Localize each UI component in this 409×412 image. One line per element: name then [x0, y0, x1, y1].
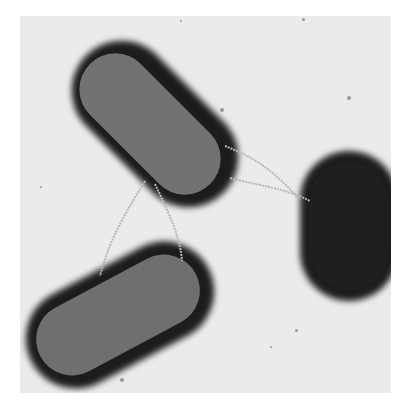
micrograph	[20, 16, 391, 393]
filaments	[20, 16, 391, 393]
